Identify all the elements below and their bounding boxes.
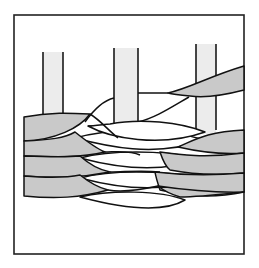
weave-line-3 (110, 171, 160, 172)
left-stake (43, 52, 63, 122)
illustration-canvas (0, 0, 259, 268)
grey-rod-right-2 (160, 152, 244, 174)
woven-fence-illustration (0, 0, 259, 268)
